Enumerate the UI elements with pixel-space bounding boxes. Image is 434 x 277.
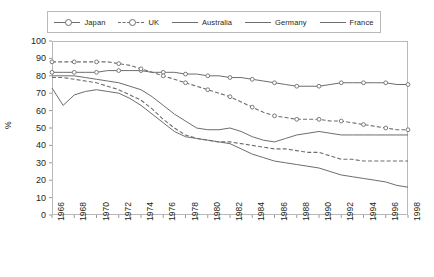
series-marker: [317, 117, 321, 121]
series-marker: [72, 70, 76, 74]
x-tick-label: 1974: [145, 202, 155, 221]
y-tick-label: 50: [22, 123, 46, 133]
y-tick-label: 20: [22, 175, 46, 185]
series-marker: [339, 119, 343, 123]
series-line-germany: [52, 78, 408, 162]
series-marker: [362, 81, 366, 85]
y-tick-label: 0: [22, 210, 46, 220]
series-marker: [273, 114, 277, 118]
x-tick-label: 1980: [212, 202, 222, 221]
series-marker: [228, 76, 232, 80]
x-tick-label: 1990: [323, 202, 333, 221]
series-marker: [117, 62, 121, 66]
y-tick-label: 90: [22, 53, 46, 63]
y-tick-label: 30: [22, 158, 46, 168]
x-tick-label: 1966: [56, 202, 66, 221]
series-marker: [228, 95, 232, 99]
series-marker: [273, 81, 277, 85]
series-marker: [362, 123, 366, 127]
series-marker: [95, 70, 99, 74]
x-tick-label: 1988: [301, 202, 311, 221]
x-tick-label: 1978: [190, 202, 200, 221]
series-layer: [0, 0, 434, 277]
series-marker: [250, 105, 254, 109]
series-marker: [184, 72, 188, 76]
series-marker: [384, 81, 388, 85]
x-tick-label: 1982: [234, 202, 244, 221]
series-marker: [50, 70, 54, 74]
series-marker: [72, 60, 76, 64]
y-tick-label: 40: [22, 140, 46, 150]
x-tick-label: 1992: [345, 202, 355, 221]
y-tick-label: 100: [22, 36, 46, 46]
x-tick-label: 1984: [256, 202, 266, 221]
series-marker: [50, 60, 54, 64]
series-marker: [95, 60, 99, 64]
series-marker: [295, 117, 299, 121]
series-marker: [295, 84, 299, 88]
series-marker: [139, 67, 143, 71]
series-marker: [406, 83, 410, 87]
x-tick-label: 1996: [390, 202, 400, 221]
y-tick-label: 60: [22, 106, 46, 116]
series-marker: [117, 69, 121, 73]
chart-container: Japan UK Australia Germany France % 1009…: [0, 0, 434, 277]
x-tick-label: 1976: [167, 202, 177, 221]
series-marker: [161, 74, 165, 78]
x-tick-label: 1998: [412, 202, 422, 221]
series-marker: [184, 81, 188, 85]
series-marker: [250, 77, 254, 81]
series-line-france: [52, 88, 408, 187]
series-marker: [206, 74, 210, 78]
series-marker: [384, 126, 388, 130]
x-tick-label: 1986: [279, 202, 289, 221]
series-line-australia: [52, 76, 408, 142]
x-tick-label: 1970: [101, 202, 111, 221]
y-tick-label: 10: [22, 193, 46, 203]
x-tick-label: 1994: [368, 202, 378, 221]
series-marker: [206, 88, 210, 92]
x-tick-label: 1972: [123, 202, 133, 221]
series-marker: [406, 128, 410, 132]
y-tick-label: 70: [22, 88, 46, 98]
series-marker: [317, 84, 321, 88]
y-tick-label: 80: [22, 71, 46, 81]
x-tick-label: 1968: [78, 202, 88, 221]
series-marker: [339, 81, 343, 85]
